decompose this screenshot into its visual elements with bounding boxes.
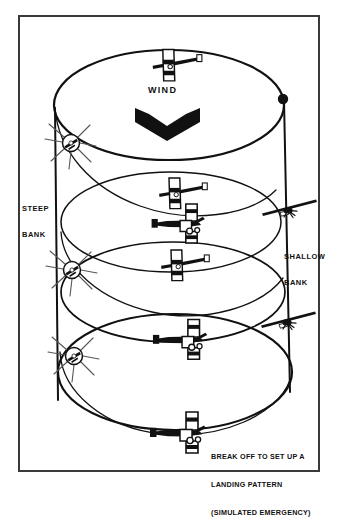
break-off-label-line3: (SIMULATED EMERGENCY) [211,508,311,517]
break-off-label-line1: BREAK OFF TO SET UP A [211,452,311,461]
reference-point-dot [278,94,288,104]
steep-bank-label-line1: STEEP [22,205,49,214]
steep-bank-label: STEEP BANK [22,188,49,258]
shallow-bank-label: SHALLOW BANK [284,236,325,306]
break-off-label: BREAK OFF TO SET UP A LANDING PATTERN (S… [211,434,311,521]
break-off-label-line2: LANDING PATTERN [211,480,311,489]
wind-label: WIND [148,85,177,95]
steep-bank-label-line2: BANK [22,231,49,240]
shallow-bank-label-line2: BANK [284,279,325,288]
shallow-bank-label-line1: SHALLOW [284,253,325,262]
